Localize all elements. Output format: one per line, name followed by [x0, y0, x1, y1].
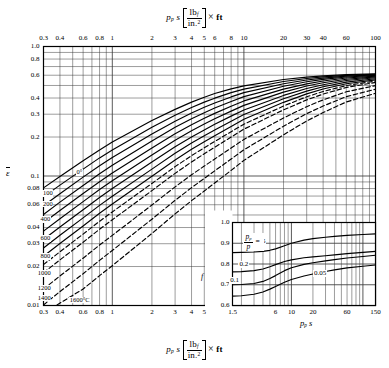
inset-x-tick-label: 10 — [280, 308, 302, 316]
y-tick-label: 0.2 — [11, 133, 40, 141]
x-tick-label-top: 0.4 — [49, 34, 71, 42]
curve-label-200: 200 — [42, 201, 53, 208]
curve-label-0°: 0° — [76, 169, 83, 176]
y-tick-label: 0.02 — [11, 262, 40, 270]
x-tick-label-top: 2 — [141, 34, 163, 42]
curve-label-600: 600 — [40, 235, 51, 242]
inset-curve-label-0.05: 0.05 — [313, 270, 327, 277]
x-tick-label-top: 10 — [233, 34, 255, 42]
inset-curve-label-0.2: 0.2 — [238, 261, 249, 268]
y-tick-label: 0.4 — [11, 94, 40, 102]
curve-label-1600: 1600°C — [69, 297, 90, 304]
y-tick-label: 0.08 — [11, 184, 40, 192]
inset-x-tick-label: 150 — [365, 308, 387, 316]
chart-figure: pp s lbfin.2 × ft ε pp s lbfin.2 × ft pp… — [0, 0, 389, 368]
x-tick-label-top: 1 — [101, 34, 123, 42]
inset-y-axis-label: f — [198, 272, 207, 281]
inset-y-tick-label: 0.7 — [206, 280, 230, 288]
top-tick-labels: 0.30.40.60.8123456810203040601000.30.40.… — [0, 0, 389, 368]
y-tick-label: 0.3 — [11, 110, 40, 118]
curve-label-400: 400 — [40, 216, 51, 223]
x-tick-label-top: 40 — [312, 34, 334, 42]
x-tick-label-top: 20 — [273, 34, 295, 42]
inset-y-tick-label: 0.6 — [206, 301, 230, 309]
y-tick-label: 1.0 — [11, 42, 40, 50]
x-tick-label-bottom: 5 — [193, 308, 215, 316]
inset-curve-label-0.1: 0.1 — [229, 277, 240, 284]
y-tick-label: 0.03 — [11, 239, 40, 247]
inset-legend: ppp= — [243, 233, 263, 250]
x-tick-label-bottom: 0.4 — [49, 308, 71, 316]
inset-y-tick-label: 0.9 — [206, 239, 230, 247]
inset-x-tick-label: 20 — [302, 308, 324, 316]
inset-y-tick-label: 0.8 — [206, 260, 230, 268]
inset-x-tick-label: 1.5 — [222, 308, 244, 316]
y-tick-label: 0.01 — [11, 301, 40, 309]
inset-y-tick-label: 1.0 — [206, 218, 230, 226]
curve-label-1400: 1400 — [37, 295, 51, 302]
x-tick-label-bottom: 1 — [101, 308, 123, 316]
x-tick-label-top: 60 — [335, 34, 357, 42]
curve-label-1200: 1200 — [37, 285, 51, 292]
y-tick-label: 0.8 — [11, 55, 40, 63]
curve-label-1000: 1000 — [37, 270, 51, 277]
curve-label-100: 100 — [42, 190, 53, 197]
y-tick-label: 0.04 — [11, 223, 40, 231]
inset-x-tick-label: 60 — [336, 308, 358, 316]
x-tick-label-top: 100 — [365, 34, 387, 42]
y-tick-label: 0.6 — [11, 71, 40, 79]
y-tick-label: 0.1 — [11, 172, 40, 180]
y-tick-label: 0.06 — [11, 200, 40, 208]
curve-label-800: 800 — [40, 253, 51, 260]
x-tick-label-bottom: 2 — [141, 308, 163, 316]
